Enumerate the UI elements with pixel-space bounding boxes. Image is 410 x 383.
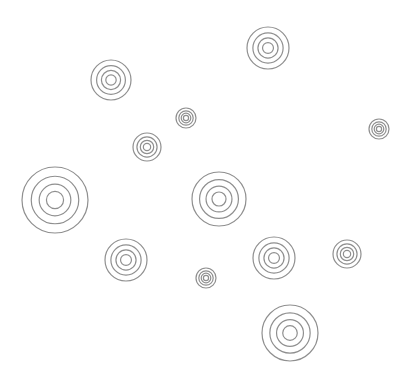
target-ring-4 (212, 192, 226, 206)
target-ring-3 (140, 140, 153, 153)
target-icon[interactable] (369, 119, 389, 139)
target-ring-2 (270, 313, 310, 353)
target-ring-2 (31, 176, 79, 224)
target-icon[interactable] (22, 167, 88, 233)
target-ring-4 (263, 43, 274, 54)
target-icon[interactable] (176, 108, 196, 128)
target-ring-2 (200, 180, 239, 219)
target-ring-4 (121, 255, 132, 266)
target-ring-4 (343, 250, 350, 257)
target-ring-3 (116, 250, 136, 270)
target-ring-4 (203, 275, 208, 280)
target-icon[interactable] (253, 237, 295, 279)
target-ring-4 (269, 253, 280, 264)
target-icon[interactable] (262, 305, 318, 361)
target-ring-4 (106, 75, 116, 85)
target-icon[interactable] (133, 133, 161, 161)
target-ring-4 (283, 326, 298, 341)
target-ring-1 (22, 167, 88, 233)
target-ring-4 (183, 115, 188, 120)
target-icon[interactable] (192, 172, 246, 226)
target-ring-3 (374, 124, 384, 134)
target-ring-3 (340, 247, 353, 260)
target-ring-3 (258, 38, 278, 58)
target-ring-3 (201, 273, 211, 283)
target-icon[interactable] (105, 239, 147, 281)
target-canvas (0, 0, 410, 383)
target-ring-4 (143, 143, 150, 150)
targets-layer (0, 0, 410, 383)
target-ring-3 (181, 113, 191, 123)
target-ring-3 (277, 320, 304, 347)
target-ring-4 (376, 126, 381, 131)
target-icon[interactable] (196, 268, 216, 288)
target-icon[interactable] (247, 27, 289, 69)
target-ring-3 (101, 70, 120, 89)
target-ring-3 (39, 184, 71, 216)
target-ring-3 (264, 248, 284, 268)
target-ring-3 (206, 186, 232, 212)
target-ring-4 (46, 191, 63, 208)
target-icon[interactable] (91, 60, 131, 100)
target-icon[interactable] (333, 240, 361, 268)
